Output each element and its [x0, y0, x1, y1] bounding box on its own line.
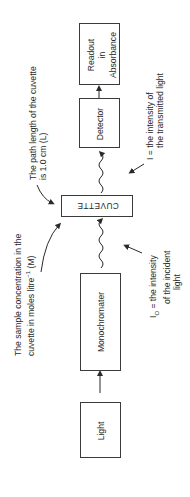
incident-line-3: light	[172, 250, 182, 318]
wavy-arrow-cuvette-to-detector	[99, 153, 103, 193]
annotation-transmitted-light: I = the intensity of the transmitted lig…	[145, 73, 165, 160]
cuvette-box: CUVETTE	[61, 195, 133, 217]
readout-box: Readout in Absorbance	[79, 23, 120, 85]
pointer-arrow-path-length	[37, 185, 52, 203]
transmitted-line-2: the transmitted light	[155, 73, 165, 160]
transmitted-line-1: I = the intensity of	[145, 73, 155, 160]
incident-line-2: of the incident	[162, 250, 172, 318]
cuvette-label: CUVETTE	[62, 201, 134, 210]
detector-label: Detector	[95, 104, 105, 144]
wavy-arrow-monochromater-to-cuvette	[99, 220, 103, 268]
light-label: Light	[96, 417, 106, 445]
path-length-line-1: The path length of the cuvette	[28, 66, 38, 180]
monochromater-label: Monochromater	[96, 290, 106, 354]
concentration-line-2: cuvette in moles litre−1 (M)	[23, 234, 36, 356]
pointer-arrow-incident	[126, 246, 142, 253]
readout-label-line-1: Readout	[86, 30, 97, 80]
readout-label-line-3: Absorbance	[108, 30, 119, 80]
incident-line-1: IO = the intensity	[148, 250, 162, 318]
monochromater-box: Monochromater	[80, 273, 121, 371]
annotation-incident-light: IO = the intensity of the incident light	[148, 250, 182, 318]
concentration-line-1: The sample concentration in the	[13, 234, 23, 356]
readout-label-line-2: in	[97, 30, 108, 80]
pointer-arrow-concentration	[41, 225, 59, 272]
annotation-concentration: The sample concentration in the cuvette …	[13, 234, 36, 356]
pointer-arrow-transmitted	[131, 164, 144, 172]
path-length-line-2: is 1.0 cm (L)	[38, 66, 48, 180]
annotation-path-length: The path length of the cuvette is 1.0 cm…	[28, 66, 48, 180]
detector-box: Detector	[79, 98, 120, 148]
light-box: Light	[80, 402, 121, 458]
